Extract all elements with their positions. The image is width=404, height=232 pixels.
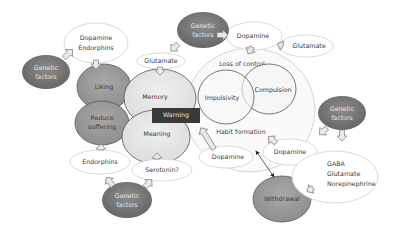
dopamine-right-label: Dopamine [274,148,306,156]
genetic-bottom-label-2: factors [116,201,138,208]
dopamine-endorphins-label-2: Endorphins [78,44,113,52]
endorphins-bottom-node: Endorphins [70,150,130,174]
dopamine-bottom-node: Dopamine [199,146,253,168]
genetic-factors-bottom: Genetic factors [102,182,152,218]
genetic-top-center-label-1: Genetic [191,22,216,29]
norepinephrine-label: Norepinephrine [327,180,376,188]
withdrawal-label: Withdrawal [264,195,300,202]
reduce-suffering-node: Reduce suffering [75,101,129,145]
impulsivity-label: Impulsivity [205,94,240,102]
impulsivity-node: Impulsivity [198,70,254,124]
gaba-group-node: GABA Glutamate Norepinephrine [292,151,378,203]
serotonin-node: Serotonin? [132,159,192,181]
glutamate-top-right-label: Glutamate [292,42,325,49]
genetic-top-center-label-2: factors [192,31,214,38]
dopamine-bottom-label: Dopamine [212,153,244,161]
endorphins-bottom-label: Endorphins [82,158,117,166]
dopamine-endorphins-label-1: Dopamine [80,34,112,42]
warning-box: Warning [152,108,200,123]
warning-label: Warning [163,111,189,119]
block-arrow-icon [167,40,181,54]
gaba-label: GABA [327,160,346,167]
genetic-factors-top-center: Genetic factors [177,12,229,48]
glutamate-left-node: Glutamate [137,53,185,69]
genetic-top-left-label-2: factors [35,73,57,80]
glutamate-top-right-node: Glutamate [279,35,333,57]
genetic-top-left-label-1: Genetic [34,64,59,71]
habit-formation-label: Habit formation [216,128,265,135]
dopamine-endorphins-node: Dopamine Endorphins [64,23,128,63]
reduce-suffering-label-1: Reduce [90,114,113,121]
meaning-label: Meaning [144,130,171,138]
genetic-bottom-label-1: Genetic [115,192,140,199]
block-arrow-icon [337,130,347,141]
addiction-diagram: Loss of control Habit formation Compulsi… [0,0,404,232]
dopamine-top-label: Dopamine [237,32,269,40]
dopamine-top-node: Dopamine [226,22,282,50]
memory-label: Memory [142,93,168,101]
genetic-factors-right: Genetic factors [318,96,366,130]
genetic-right-label-1: Genetic [330,105,355,112]
glutamate-left-label: Glutamate [144,57,177,64]
liking-label: Liking [95,83,114,91]
compulsion-label: Compulsion [255,86,292,94]
reduce-suffering-label-2: suffering [88,123,116,131]
genetic-right-label-2: factors [331,114,353,121]
serotonin-label: Serotonin? [145,166,179,173]
genetic-factors-top-left: Genetic factors [22,55,70,89]
gaba-glutamate-label: Glutamate [327,170,360,177]
